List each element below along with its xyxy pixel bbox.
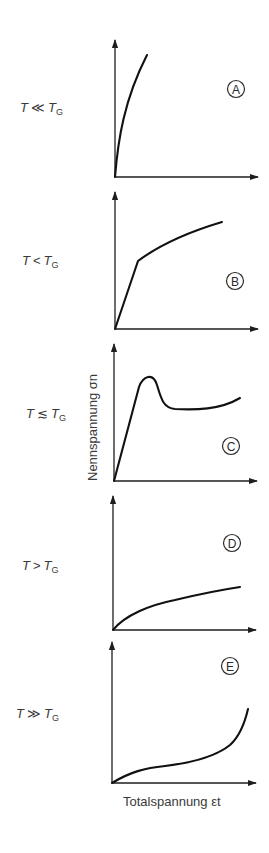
condition-label-e: T≫TG [16,706,59,723]
svg-text:D: D [228,537,237,551]
svg-text:A: A [232,83,240,97]
panel-e: T≫TG E Totalspannung εt [16,642,256,809]
badge-d: D [224,535,241,552]
stress-strain-figure: T≪TG A T<TG B T≲TG C Nenn [0,0,269,853]
condition-label-c: T≲TG [26,406,66,423]
curve-b [115,222,222,329]
panel-b: T<TG B [22,192,258,329]
panel-d: T>TG D [22,496,256,630]
x-axis-title: Totalspannung εt [123,794,221,809]
panel-a: T≪TG A [20,40,258,177]
condition-label-b: T<TG [22,253,59,270]
condition-label-a: T≪TG [20,100,63,117]
svg-text:E: E [226,660,234,674]
curve-e [112,709,248,783]
svg-text:B: B [231,275,239,289]
y-axis-title: Nennspannung σn [85,374,100,481]
curve-c [114,377,240,481]
badge-e: E [222,658,239,675]
badge-c: C [223,438,240,455]
badge-a: A [228,81,245,98]
curve-a [115,55,147,177]
svg-text:C: C [227,440,236,454]
curve-d [113,587,240,630]
badge-b: B [227,273,244,290]
condition-label-d: T>TG [22,558,59,575]
panel-c: T≲TG C Nennspannung σn [26,344,257,481]
